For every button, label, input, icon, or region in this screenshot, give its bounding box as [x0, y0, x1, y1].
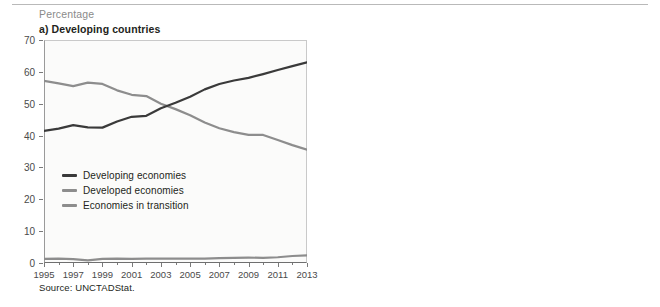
- x-axis-tick-mark: [117, 263, 118, 265]
- y-axis-tick-label: 40: [11, 130, 35, 141]
- x-axis-tick-mark: [249, 263, 250, 267]
- x-axis-tick-mark: [176, 263, 177, 265]
- x-axis-tick-mark: [132, 263, 133, 267]
- x-axis-tick-mark: [219, 263, 220, 267]
- x-axis-tick-mark: [307, 263, 308, 267]
- x-axis-tick-mark: [263, 263, 264, 265]
- y-axis-tick-mark: [39, 40, 43, 41]
- legend-swatch-developing-icon: [62, 174, 77, 177]
- x-axis-tick-label: 2013: [290, 269, 324, 280]
- legend-item: Economies in transition: [62, 198, 189, 213]
- series-line: [44, 62, 307, 130]
- x-axis-tick-mark: [205, 263, 206, 265]
- y-axis-tick-mark: [39, 104, 43, 105]
- x-axis-tick-mark: [190, 263, 191, 267]
- y-axis-tick-mark: [39, 263, 43, 264]
- panel-a-legend: Developing economies Developed economies…: [62, 168, 189, 213]
- panel-developed-countries: b) Developed countries 01020304050607080…: [330, 0, 660, 307]
- y-axis-tick-mark: [39, 199, 43, 200]
- x-axis-tick-mark: [73, 263, 74, 267]
- x-axis-tick-mark: [292, 263, 293, 265]
- y-axis-tick-label: 10: [11, 226, 35, 237]
- panel-a-lines: [44, 40, 307, 263]
- x-axis-tick-mark: [146, 263, 147, 265]
- x-axis-tick-mark: [59, 263, 60, 265]
- y-axis-tick-mark: [39, 136, 43, 137]
- legend-item: Developing economies: [62, 168, 189, 183]
- x-axis-tick-mark: [88, 263, 89, 265]
- panel-developing-countries: a) Developing countries 010203040506070 …: [0, 0, 330, 307]
- series-line: [44, 255, 307, 260]
- source-note: Source: UNCTADStat.: [39, 282, 135, 293]
- y-axis-tick-label: 0: [11, 258, 35, 269]
- y-axis-tick-label: 20: [11, 194, 35, 205]
- series-line: [44, 81, 307, 150]
- y-axis-tick-label: 50: [11, 98, 35, 109]
- y-axis-tick-mark: [39, 72, 43, 73]
- x-axis-tick-mark: [161, 263, 162, 267]
- panel-a-plot-area: [44, 40, 307, 263]
- y-axis-tick-label: 70: [11, 35, 35, 46]
- legend-swatch-developed-icon: [62, 189, 77, 192]
- y-axis-tick-label: 60: [11, 66, 35, 77]
- legend-item: Developed economies: [62, 183, 189, 198]
- legend-label-developed: Developed economies: [83, 185, 184, 196]
- legend-label-transition: Economies in transition: [83, 200, 189, 211]
- panel-a-title: a) Developing countries: [39, 23, 160, 35]
- y-axis-tick-label: 30: [11, 162, 35, 173]
- legend-swatch-transition-icon: [62, 204, 77, 207]
- y-axis-tick-mark: [39, 167, 43, 168]
- chart-figure: Percentage a) Developing countries 01020…: [0, 0, 660, 307]
- y-axis-tick-mark: [39, 231, 43, 232]
- x-axis-tick-mark: [102, 263, 103, 267]
- x-axis-tick-mark: [44, 263, 45, 267]
- x-axis-tick-mark: [234, 263, 235, 265]
- x-axis-tick-mark: [278, 263, 279, 267]
- legend-label-developing: Developing economies: [83, 170, 186, 181]
